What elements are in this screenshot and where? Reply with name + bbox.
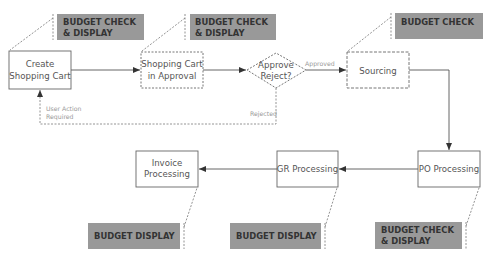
- node-label-line2: Shopping Cart: [9, 71, 71, 81]
- budget-label-line1: BUDGET CHECK: [381, 225, 454, 235]
- node-invoice-processing: Invoice Processing: [136, 151, 198, 187]
- node-label-line2: in Approval: [148, 71, 197, 81]
- node-create-shopping-cart: Create Shopping Cart: [9, 51, 71, 89]
- budget-label-line1: BUDGET CHECK: [401, 17, 474, 27]
- node-label-line2: Processing: [144, 169, 190, 179]
- annotation-connector: [466, 188, 479, 226]
- budget-label-line2: & DISPLAY: [381, 236, 431, 246]
- process-flow-diagram: BUDGET CHECK & DISPLAY BUDGET CHECK & DI…: [0, 0, 492, 258]
- node-gr-processing: GR Processing: [277, 151, 338, 187]
- budget-label-line1: BUDGET DISPLAY: [236, 231, 318, 241]
- node-label: Sourcing: [359, 66, 397, 76]
- node-shopping-cart-in-approval: Shopping Cart in Approval: [141, 52, 203, 88]
- node-label-line1: Shopping Cart: [141, 59, 203, 69]
- node-label-line1: Create: [26, 59, 55, 69]
- budget-annotation-po: BUDGET CHECK & DISPLAY: [375, 188, 479, 249]
- budget-label-line1: BUDGET DISPLAY: [94, 231, 176, 241]
- node-po-processing: PO Processing: [418, 151, 480, 187]
- edge-label-rejected: Rejected: [250, 110, 277, 118]
- annotation-connector: [184, 188, 197, 227]
- budget-annotation-invoice: BUDGET DISPLAY: [88, 188, 197, 249]
- budget-annotation-sourcing: BUDGET CHECK: [348, 13, 483, 51]
- annotation-connector: [142, 18, 185, 51]
- budget-label-line1: BUDGET CHECK: [63, 17, 136, 27]
- budget-annotation-approval: BUDGET CHECK & DISPLAY: [142, 14, 276, 51]
- budget-annotation-gr: BUDGET DISPLAY: [230, 188, 337, 249]
- node-label-line1: Invoice: [152, 158, 183, 168]
- annotation-connector: [348, 17, 391, 51]
- budget-label-line1: BUDGET CHECK: [195, 17, 268, 27]
- budget-label-line2: & DISPLAY: [195, 28, 245, 38]
- node-label-line2: Reject?: [260, 71, 291, 81]
- edge-label-approved: Approved: [305, 60, 335, 68]
- edge-sourcing-to-po: [409, 70, 449, 150]
- budget-annotation-create: BUDGET CHECK & DISPLAY: [10, 14, 144, 50]
- annotation-connector: [10, 18, 53, 50]
- annotation-connector: [325, 188, 337, 227]
- node-label: PO Processing: [419, 164, 480, 174]
- budget-label-line2: & DISPLAY: [63, 28, 113, 38]
- edge-label-user-action-line1: User Action: [46, 105, 82, 112]
- node-label: GR Processing: [277, 164, 338, 174]
- node-label-line1: Approve: [258, 60, 294, 70]
- node-approve-reject-decision: Approve Reject?: [247, 53, 306, 88]
- node-sourcing: Sourcing: [347, 52, 409, 88]
- edge-label-user-action-line2: Required: [46, 113, 74, 121]
